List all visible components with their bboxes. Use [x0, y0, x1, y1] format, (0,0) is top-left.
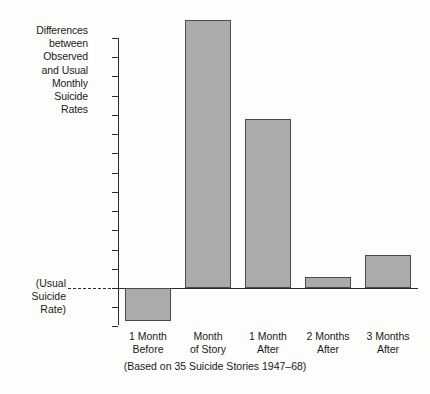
- x-axis-category-labels: 1 MonthBeforeMonthof Story1 MonthAfter2 …: [118, 330, 418, 360]
- bar: [125, 288, 171, 321]
- bar: [305, 277, 351, 288]
- category-label-line: After: [351, 343, 425, 356]
- category-label-line: 3 Months: [351, 330, 425, 343]
- bars-group: [118, 18, 418, 325]
- x-axis-category-label: 3 MonthsAfter: [351, 330, 425, 356]
- y-axis-ticks: +1300+1200+1100+1000+900+800+700+600+500…: [0, 0, 118, 394]
- bar: [185, 20, 231, 288]
- bar-chart: Differences between Observed and Usual M…: [0, 0, 430, 394]
- chart-caption: (Based on 35 Suicide Stories 1947–68): [0, 360, 430, 372]
- y-axis-tick: [112, 326, 118, 327]
- bar: [245, 119, 291, 288]
- bar: [365, 255, 411, 288]
